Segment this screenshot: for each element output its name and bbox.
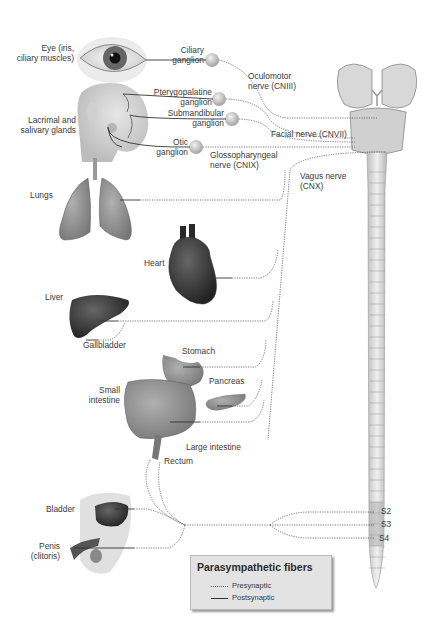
segment-s3-label: S3 (381, 520, 391, 530)
otic-ganglion (189, 140, 203, 154)
legend-item-postsynaptic: Postsynaptic (211, 593, 275, 602)
diagram-stage: Eye (iris, ciliary muscles) Lacrimal and… (0, 0, 428, 640)
pelvic-illustration (70, 493, 131, 574)
lungs-label: Lungs (30, 191, 53, 201)
legend-item-label: Postsynaptic (232, 593, 275, 602)
heart-illustration (169, 224, 217, 304)
legend-item-presynaptic: Presynaptic (211, 581, 271, 590)
legend-title: Parasympathetic fibers (197, 561, 313, 573)
oculomotor-nerve-label: Oculomotor nerve (CNIII) (248, 72, 296, 91)
solid-line-swatch (211, 598, 228, 599)
lungs-illustration (59, 158, 131, 240)
small-intestine-label: Small intestine (60, 386, 120, 405)
heart-label: Heart (144, 259, 164, 269)
eye-label: Eye (iris, ciliary muscles) (4, 44, 74, 63)
parasympathetic-diagram (0, 0, 428, 640)
eye-illustration (77, 37, 147, 83)
vagus-nerve-label: Vagus nerve (CNX) (300, 172, 346, 191)
submandibular-ganglion-label: Submandibular ganglion (154, 109, 224, 128)
gallbladder-label: Gallbladder (83, 341, 126, 351)
penis-label: Penis (clitoris) (20, 542, 60, 561)
glossopharyngeal-nerve-label: Glossopharyngeal nerve (CNIX) (210, 151, 278, 170)
liver-illustration (69, 295, 129, 338)
ciliary-ganglion (205, 53, 219, 67)
ciliary-ganglion-label: Ciliary ganglion (160, 46, 204, 65)
stomach-label: Stomach (182, 347, 215, 357)
dotted-line-swatch (211, 586, 228, 587)
large-intestine-label: Large intestine (186, 443, 241, 453)
otic-ganglion-label: Otic ganglion (146, 138, 188, 157)
liver-label: Liver (45, 293, 63, 303)
bladder-label: Bladder (46, 505, 75, 515)
segment-s2-label: S2 (381, 507, 391, 517)
pancreas-label: Pancreas (209, 377, 244, 387)
pterygopalatine-ganglion (212, 92, 226, 106)
brainstem-illustration (337, 64, 416, 154)
submandibular-ganglion (225, 112, 239, 126)
facial-nerve-label: Facial nerve (CNVII) (271, 130, 347, 140)
segment-s4-label: S4 (379, 534, 389, 544)
legend-item-label: Presynaptic (232, 581, 271, 590)
glands-label: Lacrimal and salivary glands (2, 116, 76, 135)
legend-box: Parasympathetic fibers Presynaptic Posts… (190, 555, 332, 610)
pterygopalatine-ganglion-label: Pterygopalatine ganglion (140, 88, 212, 107)
rectum-label: Rectum (164, 457, 193, 467)
